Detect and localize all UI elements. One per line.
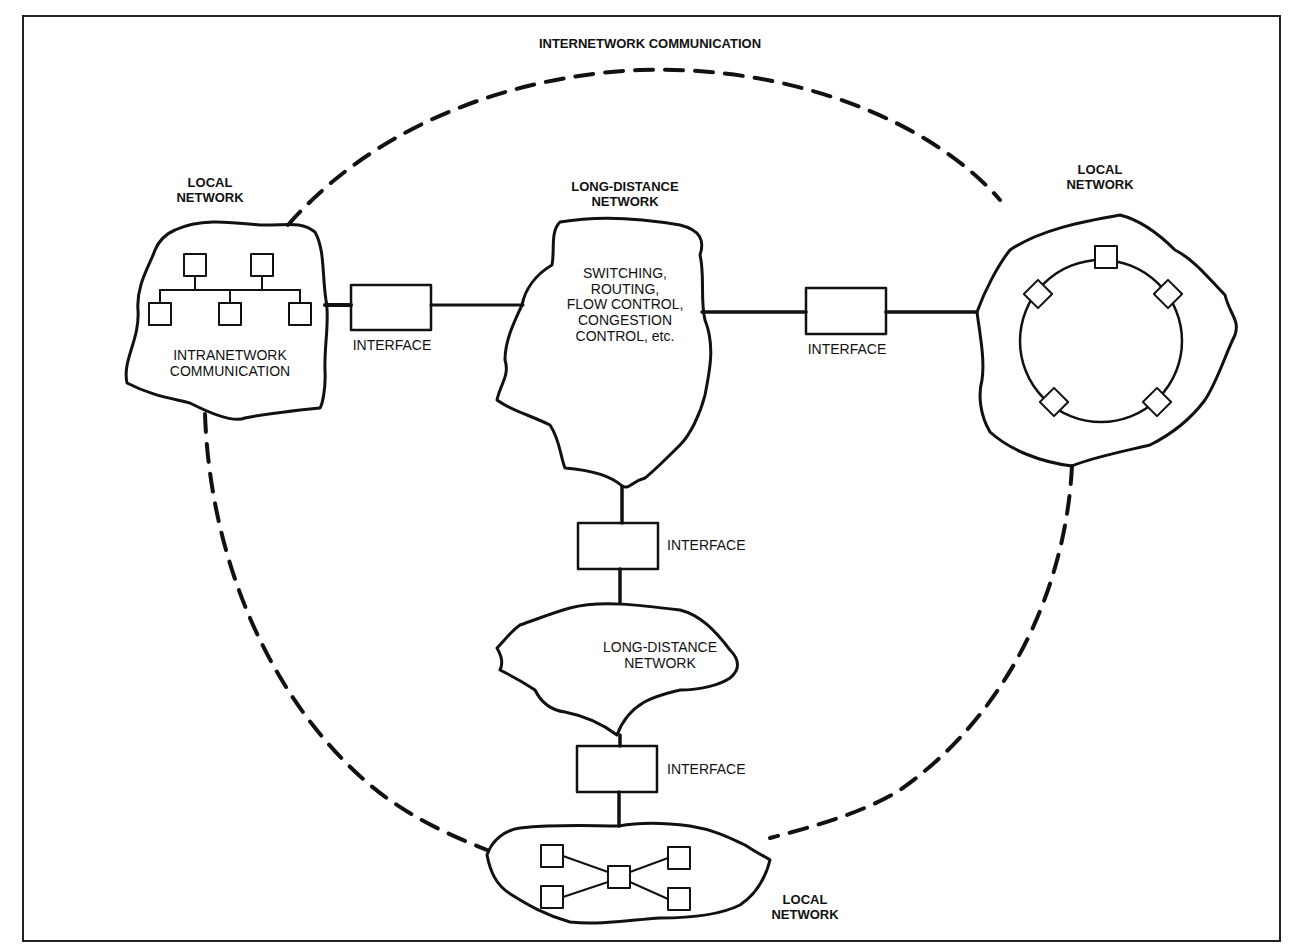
interface-right-label: INTERFACE [797,342,897,358]
intranetwork-communication-label: INTRANETWORK COMMUNICATION [140,348,320,379]
diagram-graphics [0,0,1302,952]
diagram-title: INTERNETWORK COMMUNICATION [510,37,790,52]
local-network-left-cloud [126,222,327,419]
long-distance-network-top-label: LONG-DISTANCE NETWORK [540,180,710,209]
local-network-bottom-label: LOCAL NETWORK [750,893,860,922]
long-distance-network-top-cloud [497,218,711,487]
long-distance-network-bottom-label: LONG-DISTANCE NETWORK [590,640,730,671]
long-distance-functions-label: SWITCHING, ROUTING, FLOW CONTROL, CONGES… [545,266,705,344]
interface-right-box [806,288,886,334]
local-network-bottom-cloud [487,823,770,923]
local-network-right-label: LOCAL NETWORK [1030,163,1170,192]
internetwork-diagram: INTERNETWORK COMMUNICATION LOCAL NETWORK… [0,0,1302,952]
local-network-left-label: LOCAL NETWORK [150,176,270,205]
interface-middle-box [578,523,658,569]
interface-bottom-label: INTERFACE [667,762,767,778]
interface-left-label: INTERFACE [342,338,442,354]
interface-middle-label: INTERFACE [667,538,767,554]
interface-bottom-box [577,746,657,792]
interface-left-box [351,285,431,330]
